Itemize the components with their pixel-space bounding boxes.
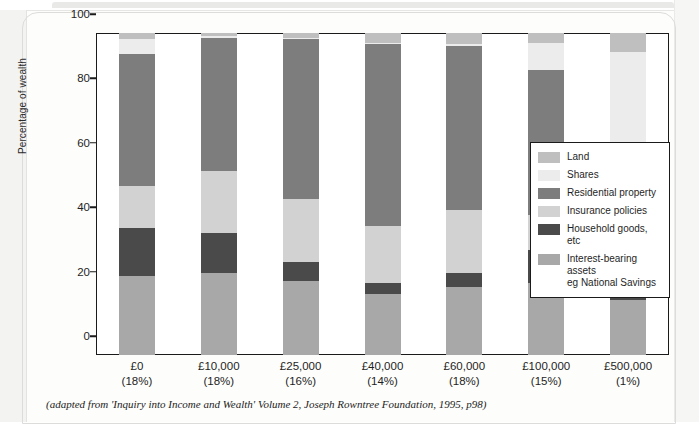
legend-label: Interest-bearing assetseg National Savin… bbox=[567, 253, 662, 289]
bar-segment bbox=[446, 210, 482, 273]
x-tick-share: (14%) bbox=[341, 374, 425, 389]
x-tick-share: (18%) bbox=[422, 374, 506, 389]
bar-segment bbox=[365, 43, 401, 45]
bar-segment bbox=[119, 54, 155, 186]
legend-swatch-icon bbox=[538, 254, 560, 265]
x-tick-share: (18%) bbox=[177, 374, 261, 389]
y-tick-label: 0 bbox=[56, 330, 90, 342]
legend-swatch-icon bbox=[538, 188, 560, 199]
figure-caption: (adapted from 'Inquiry into Income and W… bbox=[46, 398, 646, 410]
bar-segment bbox=[119, 186, 155, 228]
legend-item[interactable]: Shares bbox=[538, 169, 662, 181]
y-tick-label: 60 bbox=[56, 137, 90, 149]
bar-segment bbox=[119, 276, 155, 355]
legend-label: Land bbox=[567, 151, 589, 163]
page-right-edge bbox=[674, 0, 699, 422]
y-tick-label: 80 bbox=[56, 72, 90, 84]
bar-segment bbox=[201, 233, 237, 273]
legend-label: Insurance policies bbox=[567, 205, 647, 217]
x-tick-share: (1%) bbox=[586, 374, 670, 389]
x-tick-label: £10,000(18%) bbox=[177, 359, 261, 389]
bar-segment bbox=[119, 39, 155, 53]
x-tick-label: £0(18%) bbox=[95, 359, 179, 389]
bar-segment bbox=[365, 283, 401, 294]
bar-segment bbox=[283, 281, 319, 355]
x-tick-value: £60,000 bbox=[444, 360, 486, 372]
legend-item[interactable]: Residential property bbox=[538, 187, 662, 199]
bar-segment bbox=[365, 33, 401, 43]
bar-column bbox=[365, 33, 401, 355]
x-tick-value: £40,000 bbox=[362, 360, 404, 372]
y-tick-label: 40 bbox=[56, 201, 90, 213]
legend-item[interactable]: Insurance policies bbox=[538, 205, 662, 217]
x-tick-share: (16%) bbox=[259, 374, 343, 389]
legend-label: Residential property bbox=[567, 187, 656, 199]
bar-segment bbox=[201, 36, 237, 38]
bar-segment bbox=[365, 226, 401, 282]
x-tick-label: £100,000(15%) bbox=[504, 359, 588, 389]
x-tick-share: (18%) bbox=[95, 374, 179, 389]
legend-swatch-icon bbox=[538, 170, 560, 181]
legend-swatch-icon bbox=[538, 152, 560, 163]
legend-label: Shares bbox=[567, 169, 599, 181]
bar-segment bbox=[446, 44, 482, 46]
x-tick-label: £40,000(14%) bbox=[341, 359, 425, 389]
chart-figure: Percentage of wealth 020406080100 £0(18%… bbox=[22, 14, 674, 394]
bar-segment bbox=[365, 294, 401, 355]
bar-segment bbox=[446, 33, 482, 44]
bar-column bbox=[119, 33, 155, 355]
y-tick-label: 20 bbox=[56, 266, 90, 278]
bar-segment bbox=[283, 199, 319, 262]
x-tick-value: £0 bbox=[131, 360, 144, 372]
bar-segment bbox=[119, 228, 155, 276]
bar-segment bbox=[201, 38, 237, 172]
bar-segment bbox=[446, 287, 482, 355]
x-tick-label: £500,000(1%) bbox=[586, 359, 670, 389]
legend-swatch-icon bbox=[538, 224, 560, 235]
bar-segment bbox=[201, 171, 237, 232]
x-tick-label: £25,000(16%) bbox=[259, 359, 343, 389]
bar-segment bbox=[610, 33, 646, 52]
bar-segment bbox=[528, 33, 564, 43]
bar-segment bbox=[201, 273, 237, 355]
x-tick-value: £500,000 bbox=[604, 360, 652, 372]
x-tick-value: £25,000 bbox=[280, 360, 322, 372]
bar-segment bbox=[283, 38, 319, 40]
bar-segment bbox=[528, 43, 564, 70]
x-tick-value: £100,000 bbox=[522, 360, 570, 372]
page-top-edge-inner bbox=[52, 2, 674, 8]
bar-segment bbox=[610, 300, 646, 355]
bar-segment bbox=[119, 33, 155, 39]
bar-segment bbox=[446, 46, 482, 210]
bar-segment bbox=[201, 33, 237, 36]
x-tick-value: £10,000 bbox=[198, 360, 240, 372]
y-tick-label: 100 bbox=[56, 8, 90, 20]
x-tick-label: £60,000(18%) bbox=[422, 359, 506, 389]
x-axis-labels: £0(18%)£10,000(18%)£25,000(16%)£40,000(1… bbox=[96, 359, 669, 399]
bar-segment bbox=[283, 33, 319, 38]
bar-column bbox=[283, 33, 319, 355]
bar-segment bbox=[283, 39, 319, 198]
bar-segment bbox=[283, 262, 319, 281]
legend-swatch-icon bbox=[538, 206, 560, 217]
y-axis-ticks: 020406080100 bbox=[50, 14, 90, 355]
y-tick-mark bbox=[90, 13, 96, 15]
bar-segment bbox=[365, 44, 401, 226]
bar-segment bbox=[446, 273, 482, 287]
legend-item[interactable]: Interest-bearing assetseg National Savin… bbox=[538, 253, 662, 289]
legend-label: Household goods, etc bbox=[567, 223, 662, 247]
chart-legend: LandSharesResidential propertyInsurance … bbox=[530, 142, 670, 298]
page-top-edge bbox=[0, 0, 698, 11]
y-axis-title: Percentage of wealth bbox=[17, 0, 28, 154]
legend-item[interactable]: Land bbox=[538, 151, 662, 163]
x-tick-share: (15%) bbox=[504, 374, 588, 389]
legend-item[interactable]: Household goods, etc bbox=[538, 223, 662, 247]
bar-column bbox=[446, 33, 482, 355]
bar-column bbox=[201, 33, 237, 355]
